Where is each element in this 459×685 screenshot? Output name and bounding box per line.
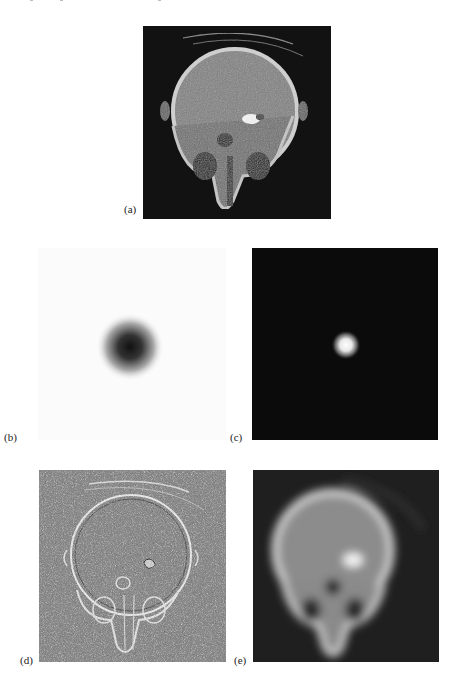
gaussian-psf-bright xyxy=(252,248,438,440)
panel-c-label: (c) xyxy=(230,431,242,443)
panel-a-label: (a) xyxy=(124,203,136,215)
panel-c-psf xyxy=(252,248,438,440)
edge-enhanced-skull xyxy=(39,470,226,662)
panel-d-label: (d) xyxy=(20,654,33,666)
page-top-edge xyxy=(0,0,459,4)
panel-b-psf-inverted xyxy=(38,248,226,440)
panel-a-noisy-ct xyxy=(143,26,331,219)
skull-ct-image xyxy=(143,26,331,219)
panel-b-label: (b) xyxy=(4,431,17,443)
panel-e-label: (e) xyxy=(234,654,246,666)
panel-e-blurred-ct xyxy=(253,470,439,662)
gaussian-psf-dark xyxy=(38,248,226,440)
blurred-skull-image xyxy=(253,470,439,662)
panel-d-edge-map xyxy=(39,470,226,662)
